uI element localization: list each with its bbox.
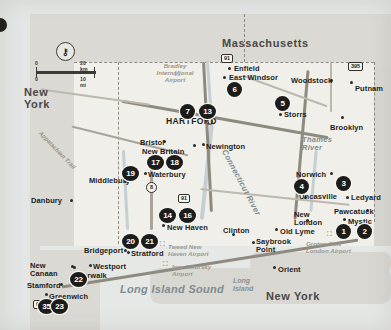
city-label: Stratford (131, 249, 164, 258)
city-dot (223, 76, 226, 79)
label-state-new-york-west-text: New York (24, 86, 50, 110)
city-dot (71, 265, 74, 268)
city-dot (350, 81, 353, 84)
airport-icon-tweed: ⛶ (160, 240, 165, 248)
city-dot (279, 113, 282, 116)
label-sikorsky-airport: Igor Sikorsky Airport (172, 263, 216, 277)
scale-km-start: 0 (35, 60, 38, 66)
city-label: Enfield (234, 64, 260, 73)
city-label: Orient (278, 265, 301, 274)
poi-marker-23[interactable]: 23 (51, 299, 68, 314)
city-dot (346, 196, 349, 199)
city-label: Stamford (27, 281, 61, 290)
poi-marker-20[interactable]: 20 (122, 234, 139, 249)
poi-marker-3[interactable]: 3 (336, 176, 351, 191)
label-thames-river: Thames River (302, 136, 338, 153)
route-shield: 91 (178, 194, 190, 203)
city-label: Bristol (140, 138, 164, 147)
city-label: Saybrook Point (256, 238, 286, 255)
label-state-massachusetts: Massachusetts (222, 37, 309, 49)
label-state-new-york-west: New York (24, 86, 68, 111)
road-minor-putnam (330, 62, 332, 112)
city-dot (343, 218, 346, 221)
poi-marker-18[interactable]: 18 (166, 155, 183, 170)
city-label: New London (294, 211, 324, 228)
city-dot (202, 143, 205, 146)
city-dot (341, 116, 344, 119)
poi-marker-5[interactable]: 5 (275, 96, 290, 111)
city-dot (144, 172, 147, 175)
city-dot (162, 224, 165, 227)
city-label: East Windsor (229, 73, 278, 82)
city-label: New Canaan (30, 262, 60, 279)
city-dot (275, 228, 278, 231)
city-dot (228, 67, 231, 70)
airport-icon-sikorsky: ⛶ (163, 260, 168, 268)
poi-marker-16[interactable]: 16 (179, 208, 196, 223)
scale-mi-end: 10 mi (80, 76, 86, 88)
poi-marker-14[interactable]: 14 (159, 208, 176, 223)
city-label: Waterbury (148, 170, 186, 179)
route-shield: 8 (146, 182, 157, 193)
poi-marker-22[interactable]: 22 (70, 272, 87, 287)
city-dot (273, 266, 276, 269)
poi-marker-19[interactable]: 19 (122, 166, 139, 181)
city-label: Danbury (31, 196, 62, 205)
route-shield: 91 (221, 54, 233, 63)
poi-marker-13[interactable]: 13 (199, 104, 216, 119)
city-label: New Haven (167, 223, 208, 232)
label-tweed-airport: Tweed New Haven Airport (168, 243, 214, 257)
location-pin-icon[interactable]: ⚷ (56, 42, 75, 61)
scale-mi-start: 0 (35, 76, 38, 82)
city-label: Westport (93, 262, 126, 271)
city-label: Bridgeport (84, 246, 123, 255)
city-label: Ledyard (351, 193, 381, 202)
city-label: Clinton (223, 226, 250, 235)
poi-marker-4[interactable]: 4 (294, 179, 309, 194)
border-ny-ct (118, 62, 119, 244)
poi-marker-17[interactable]: 17 (147, 155, 164, 170)
city-label: Pawcatuck (334, 207, 374, 216)
city-dot (330, 172, 333, 175)
airport-icon-bradley: ⛶ (175, 70, 180, 78)
poi-marker-1[interactable]: 1 (336, 224, 351, 239)
city-dot (45, 293, 48, 296)
city-label: Brooklyn (330, 123, 363, 132)
poi-marker-6[interactable]: 6 (227, 82, 242, 97)
city-dot (193, 144, 196, 147)
city-label: Old Lyme (280, 227, 315, 236)
state-area-massachusetts (30, 14, 391, 66)
map-container[interactable]: Long Island Sound Connecticut River Tham… (0, 0, 391, 330)
city-label: Woodstock (291, 76, 332, 85)
label-groton-airport: Groton-New London Airport (306, 240, 358, 254)
city-label: Newington (206, 142, 245, 151)
city-dot (70, 199, 73, 202)
city-label: Storrs (284, 110, 307, 119)
city-label: Putnam (355, 84, 383, 93)
city-dot (89, 264, 92, 267)
city-label: Norwich (296, 170, 326, 179)
label-long-island-sound: Long Island Sound (120, 283, 224, 295)
poi-marker-21[interactable]: 21 (141, 234, 158, 249)
scale-tick-end (94, 67, 95, 78)
poi-marker-2[interactable]: 2 (357, 224, 372, 239)
city-dot (252, 241, 255, 244)
scale-km-end: 20 km (80, 60, 88, 72)
city-label: Uncasville (299, 192, 337, 201)
poi-marker-7[interactable]: 7 (180, 104, 195, 119)
route-shield: 395 (348, 62, 363, 71)
city-label: New Britain (142, 147, 184, 156)
label-long-island: Long Island (233, 277, 259, 292)
airport-icon-groton: ⛶ (327, 230, 332, 238)
city-dot (127, 251, 130, 254)
label-state-new-york-island: New York (266, 290, 320, 302)
